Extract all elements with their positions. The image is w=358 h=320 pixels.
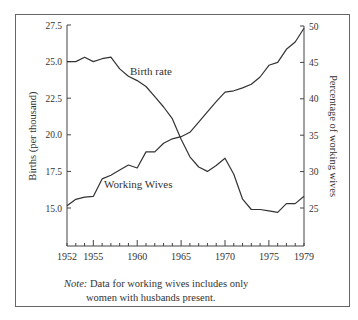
x-tick-label: 1979	[294, 251, 314, 262]
y-tick-right-label: 40	[309, 94, 319, 104]
birth-rate-label: Birth rate	[130, 65, 172, 77]
y-tick-left-label: 22.5	[45, 94, 62, 104]
note-prefix: Note:	[64, 278, 87, 289]
y-tick-left-label: 27.5	[45, 21, 62, 31]
series-lines	[67, 28, 304, 212]
x-tick-label: 1965	[171, 251, 191, 262]
working-wives-line	[67, 28, 304, 206]
working-wives-label: Working Wives	[104, 178, 172, 190]
y-tick-right-label: 30	[309, 167, 319, 177]
y-tick-left-label: 20.0	[45, 130, 62, 140]
line-chart: 195219551960196519701975197915.017.520.0…	[0, 0, 358, 320]
y-tick-left-label: 25.0	[45, 57, 62, 67]
y-axis-left-label: Births (per thousand)	[27, 91, 39, 181]
x-tick-label: 1955	[83, 251, 103, 262]
y-tick-right-label: 35	[309, 131, 319, 141]
x-tick-label: 1960	[127, 251, 147, 262]
y-tick-left-label: 17.5	[45, 167, 62, 177]
y-tick-right-label: 45	[309, 58, 319, 68]
y-tick-right-label: 50	[309, 22, 319, 32]
x-tick-label: 1975	[259, 251, 279, 262]
x-tick-label: 1970	[215, 251, 235, 262]
note-line-2: women with husbands present.	[64, 291, 248, 305]
y-axis-right-label: Percentage of working wives	[328, 75, 339, 197]
x-tick-label: 1952	[57, 251, 77, 262]
y-tick-left-label: 15.0	[45, 204, 62, 214]
chart-note: Note: Data for working wives includes on…	[64, 277, 248, 305]
y-tick-right-label: 25	[309, 204, 319, 214]
note-line-1: Data for working wives includes only	[87, 278, 248, 289]
